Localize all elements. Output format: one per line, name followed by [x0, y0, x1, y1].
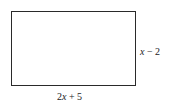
rectangle: [11, 11, 136, 86]
height-label: x − 2: [140, 46, 160, 57]
width-label: 2x + 5: [57, 91, 82, 102]
